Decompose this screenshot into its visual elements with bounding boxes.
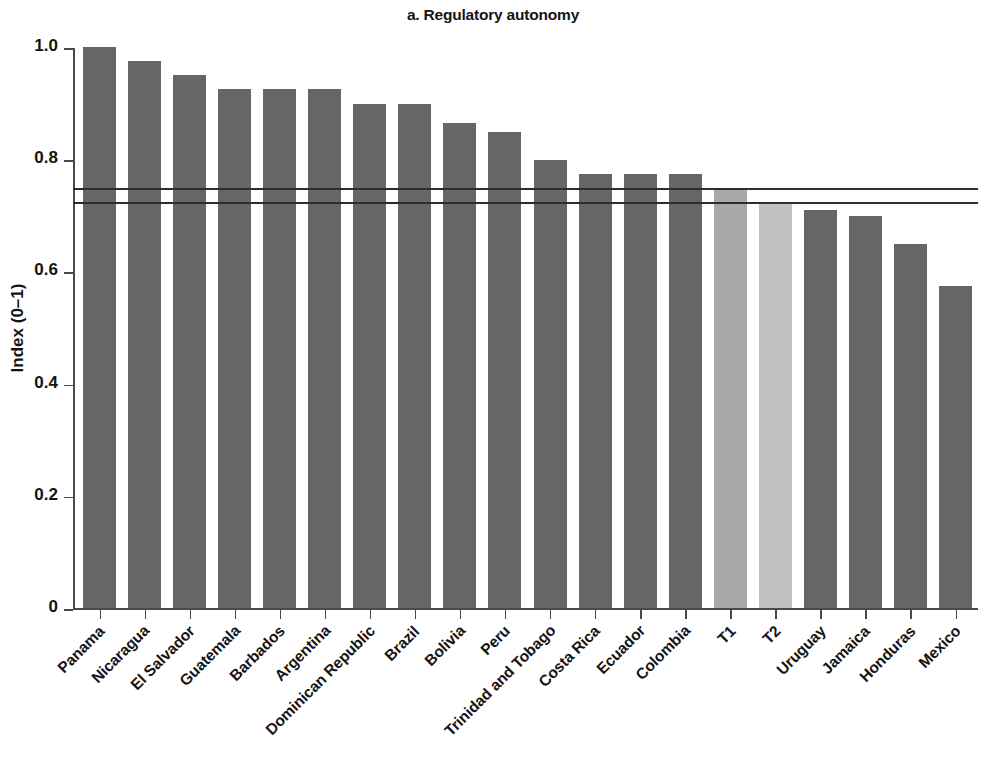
x-axis-tick [685, 609, 686, 619]
x-axis-tick [910, 609, 911, 619]
bar-t2 [759, 202, 792, 609]
x-axis-tick [280, 609, 281, 619]
x-axis-tick [325, 609, 326, 619]
x-axis-tick [865, 609, 866, 619]
x-axis-label-peru: Peru [477, 622, 514, 659]
x-axis-tick [145, 609, 146, 619]
bar-brazil [398, 104, 431, 609]
bar-jamaica [849, 216, 882, 609]
bar-el-salvador [173, 75, 206, 608]
bar-costa-rica [579, 174, 612, 609]
bar-colombia [669, 174, 702, 609]
x-axis-label-t2: T2 [759, 622, 784, 647]
y-axis-tick: 0.4 [64, 385, 73, 387]
bar-honduras [894, 244, 927, 609]
bar-ecuador [624, 174, 657, 609]
bar-t1 [714, 188, 747, 609]
y-axis-tick: 0.2 [64, 497, 73, 499]
x-axis-tick [235, 609, 236, 619]
x-axis-tick [370, 609, 371, 619]
bar-uruguay [804, 210, 837, 608]
y-axis-tick: 0 [64, 609, 73, 611]
bar-mexico [939, 286, 972, 609]
x-axis-tick [550, 609, 551, 619]
x-axis-label-t1: T1 [714, 622, 739, 647]
x-axis-label-mexico: Mexico [915, 622, 964, 671]
y-axis-tick-label: 0.6 [0, 261, 58, 278]
bar-guatemala [218, 89, 251, 608]
x-axis-tick [190, 609, 191, 619]
y-axis-tick-label: 0.8 [0, 149, 58, 166]
y-axis-tick-label: 0 [0, 598, 58, 615]
bar-barbados [263, 89, 296, 608]
reference-line-t2 [73, 202, 978, 204]
y-axis-title: Index (0–1) [8, 284, 28, 373]
y-axis-tick: 0.8 [64, 160, 73, 162]
x-axis-label-bolivia: Bolivia [421, 622, 469, 670]
x-axis-tick [595, 609, 596, 619]
x-axis-label-uruguay: Uruguay [773, 622, 830, 679]
x-axis-tick [505, 609, 506, 619]
bar-dominican-republic [353, 104, 386, 609]
plot-area: Index (0–1) 00.20.40.60.81.0 [73, 40, 978, 617]
x-axis-tick [460, 609, 461, 619]
y-axis-tick-label: 1.0 [0, 37, 58, 54]
y-axis-tick-label: 0.2 [0, 486, 58, 503]
chart-title: a. Regulatory autonomy [0, 6, 986, 24]
bar-trinidad-and-tobago [534, 160, 567, 609]
x-axis-tick [640, 609, 641, 619]
x-axis-tick [956, 609, 957, 619]
x-axis-tick [775, 609, 776, 619]
y-axis-tick: 0.6 [64, 272, 73, 274]
x-axis-tick [415, 609, 416, 619]
x-axis-line [73, 608, 978, 610]
bar-bolivia [443, 123, 476, 608]
chart-figure: a. Regulatory autonomy Index (0–1) 00.20… [0, 0, 986, 759]
bar-nicaragua [128, 61, 161, 608]
x-axis-label-brazil: Brazil [381, 622, 423, 664]
y-axis-tick-label: 0.4 [0, 374, 58, 391]
y-axis-line [73, 48, 75, 609]
x-axis-tick [100, 609, 101, 619]
bar-panama [83, 47, 116, 608]
x-axis-tick [820, 609, 821, 619]
x-axis-tick [730, 609, 731, 619]
bar-argentina [308, 89, 341, 608]
reference-line-t1 [73, 188, 978, 190]
y-axis-tick: 1.0 [64, 48, 73, 50]
